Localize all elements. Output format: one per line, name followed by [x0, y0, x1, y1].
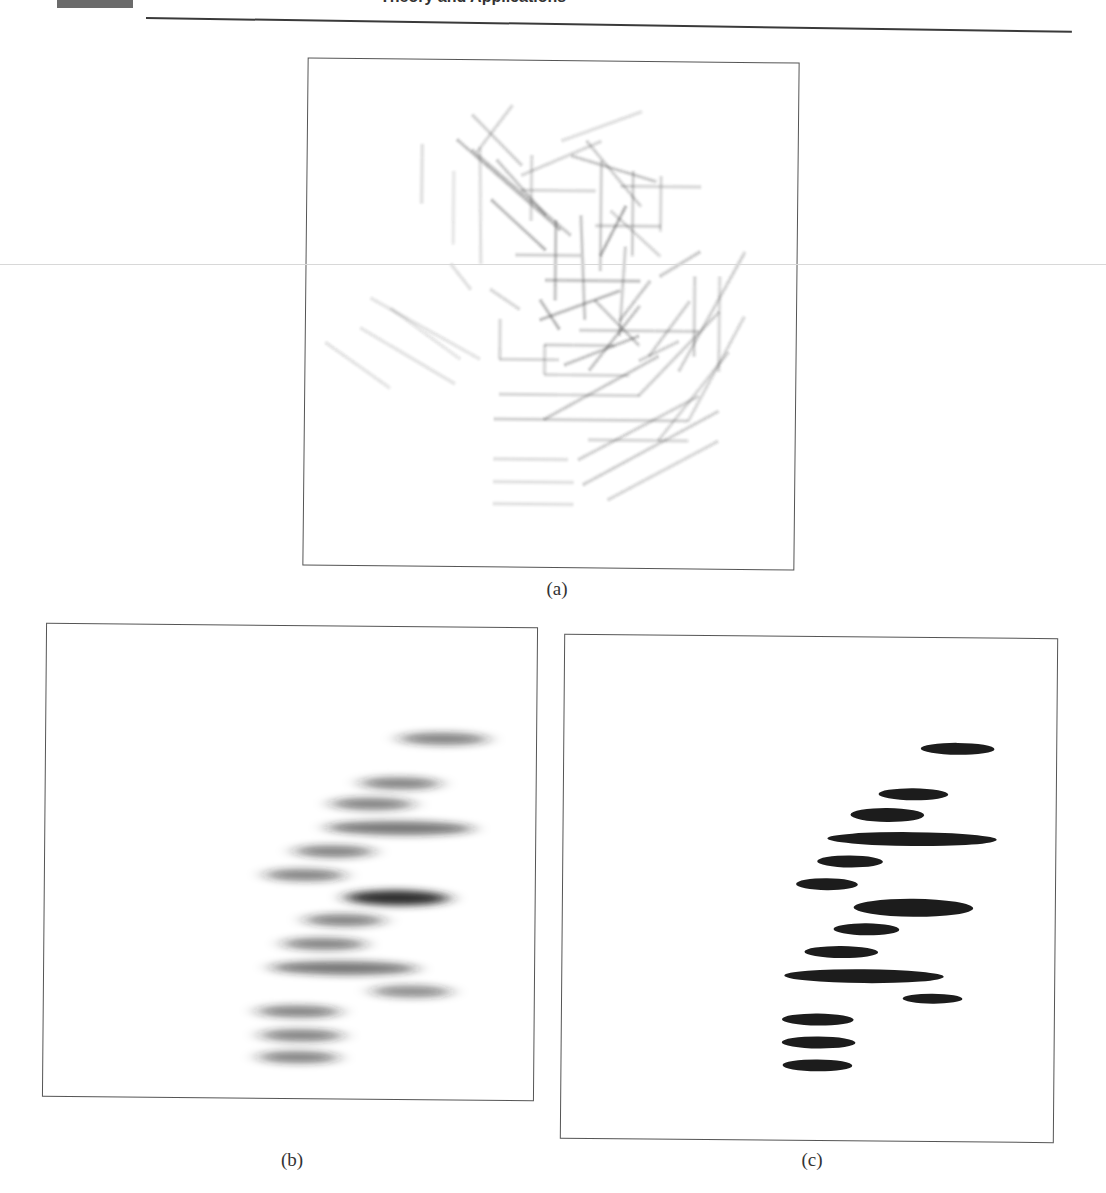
blurred-ellipses-image	[43, 624, 537, 1100]
edge-segment	[490, 289, 520, 309]
figure-panel-c	[560, 634, 1058, 1143]
edge-segment	[540, 290, 620, 321]
edge-segment	[610, 211, 660, 256]
edge-segment	[479, 148, 482, 265]
edge-segment	[471, 150, 571, 236]
edge-segment	[679, 252, 745, 372]
edge-segment	[453, 172, 454, 245]
solid-ellipse	[878, 788, 948, 801]
solid-ellipse	[783, 1059, 853, 1072]
edge-segment	[516, 255, 581, 256]
edge-segment	[580, 330, 700, 331]
edge-segment	[540, 300, 560, 330]
blurred-ellipse	[257, 1005, 340, 1018]
edge-segment	[571, 156, 656, 182]
blurred-ellipse	[270, 960, 417, 975]
running-header: Theory and Applications	[380, 0, 566, 6]
blurred-ellipse	[345, 890, 449, 906]
solid-ellipse	[833, 923, 899, 936]
blurred-ellipse	[304, 914, 384, 927]
edge-segment	[564, 335, 639, 366]
edge-segment	[578, 395, 698, 461]
edge-segment	[451, 264, 471, 289]
edge-segment	[589, 440, 689, 441]
blurred-ellipse	[283, 937, 366, 950]
caption-c: (c)	[782, 1149, 842, 1171]
scan-artifact-line	[0, 264, 1106, 265]
blurred-ellipse	[360, 777, 440, 790]
figure-panel-b	[42, 623, 538, 1101]
edge-segments-image	[303, 58, 798, 569]
blurred-ellipse	[326, 820, 473, 835]
edge-segment	[545, 280, 640, 281]
blurred-ellipse	[399, 732, 488, 745]
blurred-ellipse	[265, 868, 345, 881]
solid-ellipse	[817, 855, 883, 868]
solid-ellipse	[804, 946, 878, 959]
solid-ellipse	[850, 808, 924, 823]
blurred-ellipse	[294, 845, 374, 858]
edge-segment	[562, 111, 642, 142]
solid-ellipse	[782, 1036, 856, 1049]
chapter-tab-block	[57, 0, 133, 8]
edge-segment	[325, 343, 390, 388]
solid-ellipse	[784, 968, 943, 983]
caption-a: (a)	[527, 578, 587, 600]
edge-segment	[600, 161, 601, 271]
solid-ellipse	[903, 993, 963, 1003]
solid-ellipse	[854, 898, 974, 917]
edge-segment	[494, 459, 569, 460]
solid-ellipse	[827, 831, 996, 846]
caption-b: (b)	[262, 1149, 322, 1171]
edge-segment	[555, 220, 556, 300]
edge-segment	[632, 171, 633, 256]
edge-segment	[422, 144, 423, 204]
edge-segment	[619, 246, 625, 336]
edge-segment	[477, 105, 512, 152]
edge-segment	[370, 298, 480, 359]
blurred-ellipse	[371, 985, 451, 998]
blurred-ellipse	[331, 797, 414, 810]
edge-segment	[649, 301, 689, 356]
edge-segment	[544, 375, 629, 376]
solid-ellipse	[782, 1013, 854, 1026]
blurred-ellipse	[260, 1029, 343, 1042]
edge-segment	[499, 394, 638, 395]
edge-segment	[608, 440, 718, 501]
figure-panel-a	[302, 57, 799, 570]
solid-ellipse	[921, 743, 995, 756]
header-rule	[146, 17, 1072, 33]
edge-segment	[544, 355, 659, 421]
solid-ellipse	[796, 878, 858, 890]
edge-segment	[493, 482, 573, 483]
thresholded-ellipses-image	[561, 635, 1057, 1142]
edge-segment	[500, 359, 560, 360]
edge-segment	[660, 177, 661, 232]
edge-segment	[493, 504, 573, 505]
edge-segment	[522, 140, 602, 176]
edge-segment	[545, 345, 615, 346]
blurred-ellipse	[258, 1051, 338, 1064]
edge-segment	[719, 277, 720, 372]
edge-segment	[531, 155, 532, 220]
edge-segment	[494, 419, 688, 421]
